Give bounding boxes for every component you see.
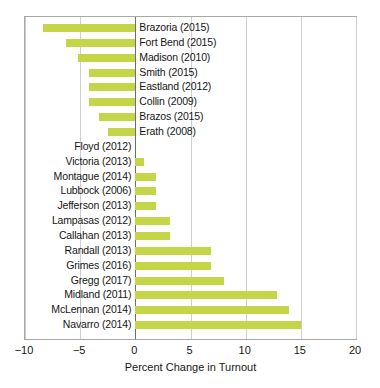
bar-row[interactable]: Montague (2014): [25, 170, 356, 185]
bar[interactable]: [135, 187, 156, 195]
x-tick-label: 0: [131, 343, 137, 357]
gridline-20: [356, 17, 357, 339]
bar-row[interactable]: Navarro (2014): [25, 318, 356, 333]
bar[interactable]: [89, 98, 135, 106]
bar[interactable]: [66, 39, 136, 47]
bar-rows: Brazoria (2015)Fort Bend (2015)Madison (…: [25, 17, 356, 339]
bar[interactable]: [135, 321, 301, 329]
x-axis-title: Percent Change in Turnout: [24, 361, 357, 373]
bar-row-label: Jefferson (2013): [57, 198, 131, 212]
bar-row[interactable]: Brazoria (2015): [25, 21, 356, 36]
x-tick-label: 15: [294, 343, 306, 357]
bar[interactable]: [78, 54, 135, 62]
bar-row[interactable]: Gregg (2017): [25, 274, 356, 289]
bar[interactable]: [135, 232, 169, 240]
bar[interactable]: [89, 69, 135, 77]
bar[interactable]: [135, 262, 211, 270]
x-tick-label: −10: [15, 343, 34, 357]
bar-row[interactable]: Lubbock (2006): [25, 184, 356, 199]
bar-row-label: Gregg (2017): [71, 273, 132, 287]
x-tick-label: 5: [186, 343, 192, 357]
bar-row[interactable]: Floyd (2012): [25, 140, 356, 155]
bar[interactable]: [135, 202, 156, 210]
bar-row[interactable]: Grimes (2016): [25, 259, 356, 274]
bar-row[interactable]: Madison (2010): [25, 51, 356, 66]
bar-row-label: Floyd (2012): [74, 139, 131, 153]
bar[interactable]: [135, 277, 223, 285]
bar-row-label: Montague (2014): [54, 169, 132, 183]
bar-row[interactable]: Lampasas (2012): [25, 214, 356, 229]
bar[interactable]: [43, 24, 136, 32]
bar-row-label: Fort Bend (2015): [139, 35, 216, 49]
bar-row[interactable]: Fort Bend (2015): [25, 36, 356, 51]
bar-row-label: Midland (2011): [64, 287, 131, 301]
bar[interactable]: [135, 291, 276, 299]
bar-row[interactable]: Smith (2015): [25, 66, 356, 81]
bar[interactable]: [135, 247, 211, 255]
bar-row-label: McLennan (2014): [51, 302, 131, 316]
bar-row-label: Victoria (2013): [66, 154, 132, 168]
bar[interactable]: [135, 306, 288, 314]
bar[interactable]: [135, 173, 156, 181]
bar-row-label: Madison (2010): [139, 50, 210, 64]
x-tick-label: 20: [349, 343, 361, 357]
x-axis-tick-labels: −10−505101520: [24, 343, 357, 359]
bar[interactable]: [89, 83, 135, 91]
bar-row-label: Grimes (2016): [66, 258, 131, 272]
bar-row[interactable]: Brazos (2015): [25, 110, 356, 125]
bar-row-label: Eastland (2012): [139, 79, 211, 93]
bar-row-label: Collin (2009): [139, 94, 197, 108]
bar-chart-figure: Brazoria (2015)Fort Bend (2015)Madison (…: [0, 0, 380, 388]
bar-row-label: Smith (2015): [139, 65, 197, 79]
plot-area: Brazoria (2015)Fort Bend (2015)Madison (…: [24, 16, 357, 340]
bar-row[interactable]: McLennan (2014): [25, 303, 356, 318]
bar-row[interactable]: Midland (2011): [25, 288, 356, 303]
bar-row-label: Brazos (2015): [139, 109, 203, 123]
bar-row[interactable]: Jefferson (2013): [25, 199, 356, 214]
bar-row-label: Erath (2008): [139, 124, 196, 138]
bar[interactable]: [135, 217, 169, 225]
bar[interactable]: [108, 128, 136, 136]
bar-row-label: Randall (2013): [65, 243, 132, 257]
bar-row[interactable]: Victoria (2013): [25, 155, 356, 170]
bar-row[interactable]: Erath (2008): [25, 125, 356, 140]
bar-row[interactable]: Collin (2009): [25, 95, 356, 110]
bar-row[interactable]: Callahan (2013): [25, 229, 356, 244]
bar-row[interactable]: Eastland (2012): [25, 80, 356, 95]
bar-row-label: Brazoria (2015): [139, 20, 209, 34]
bar-row-label: Lubbock (2006): [60, 183, 131, 197]
x-tick-label: 10: [239, 343, 251, 357]
bar-row-label: Callahan (2013): [59, 228, 131, 242]
x-tick-label: −5: [73, 343, 86, 357]
bar-row-label: Lampasas (2012): [52, 213, 131, 227]
bar-row[interactable]: Randall (2013): [25, 244, 356, 259]
bar[interactable]: [99, 113, 135, 121]
bar[interactable]: [135, 158, 144, 166]
bar-row-label: Navarro (2014): [63, 317, 132, 331]
